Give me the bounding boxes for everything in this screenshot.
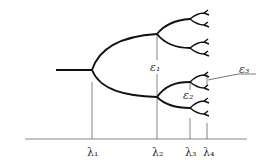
epsilon2-label: ε₂ bbox=[183, 89, 193, 102]
lambda2-label: λ₂ bbox=[152, 146, 163, 159]
lambda3-label: λ₃ bbox=[185, 146, 196, 159]
branches bbox=[92, 19, 190, 108]
epsilon1-label: ε₁ bbox=[150, 61, 160, 74]
leader-epsilon3 bbox=[208, 74, 238, 80]
epsilon3-label: ε₃ bbox=[239, 63, 249, 76]
bifurcation-diagram: ε₁ ε₂ ε₃ λ₁ λ₂ λ₃ λ₄ bbox=[0, 0, 271, 166]
lambda4-label: λ₄ bbox=[203, 146, 215, 159]
lambda1-label: λ₁ bbox=[87, 146, 98, 159]
bifurcation-svg: ε₁ ε₂ ε₃ λ₁ λ₂ λ₃ λ₄ bbox=[0, 0, 271, 166]
